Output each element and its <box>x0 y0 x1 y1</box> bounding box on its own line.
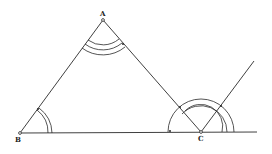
angle-arcs-a <box>82 39 125 55</box>
vertex-c <box>200 131 203 134</box>
vertex-a <box>102 19 105 22</box>
tick-mark <box>179 106 181 108</box>
ray-from-c <box>201 61 254 132</box>
side-ac <box>103 20 201 132</box>
vertex-b <box>19 132 22 135</box>
label-b: B <box>15 135 21 144</box>
tick-mark <box>169 130 171 132</box>
tick-mark <box>122 43 124 45</box>
angle-arcs-c <box>168 99 234 132</box>
tick-mark <box>37 108 39 110</box>
angle-arcs-b <box>37 108 52 133</box>
side-ab <box>20 20 103 133</box>
base-line-bc-extended <box>20 132 257 133</box>
triangle-diagram: A B C <box>0 0 272 154</box>
label-a: A <box>99 9 106 18</box>
label-c: C <box>198 134 204 143</box>
tick-mark <box>220 105 222 107</box>
